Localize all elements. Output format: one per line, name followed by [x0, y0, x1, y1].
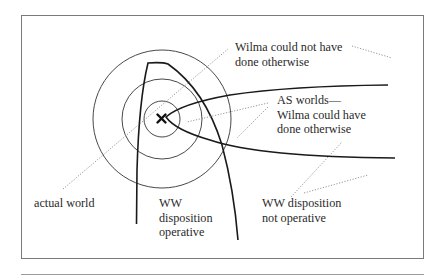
leader-actual-world	[63, 49, 228, 189]
label-actual-world: actual world	[34, 196, 95, 211]
leader-as-worlds-down	[237, 107, 268, 138]
leader-not-operative-up	[291, 142, 342, 197]
modal-diagram	[0, 0, 445, 277]
actual-world-marker-icon	[158, 115, 166, 123]
label-could-not: Wilma could not have done otherwise	[235, 40, 342, 69]
leader-could-not-right	[352, 46, 392, 58]
label-ww-operative: WW disposition operative	[159, 196, 213, 240]
label-as-worlds: AS worlds— Wilma could have done otherwi…	[277, 93, 366, 137]
label-ww-not-operative: WW disposition not operative	[262, 196, 341, 225]
leader-not-operative-right	[304, 175, 368, 193]
